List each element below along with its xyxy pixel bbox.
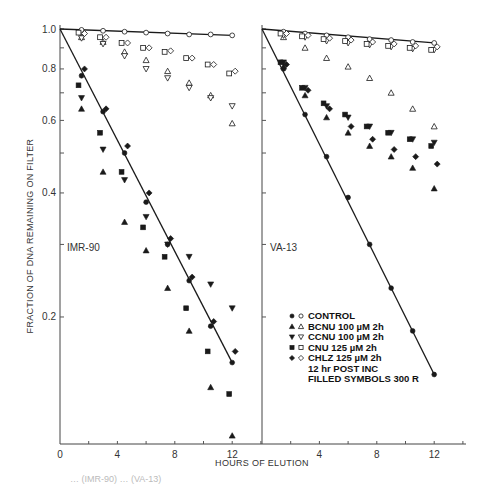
triangle-down-marker-icon	[165, 76, 171, 81]
square-marker-icon	[386, 130, 391, 135]
square-marker-icon	[300, 85, 305, 90]
square-marker-icon	[76, 30, 81, 35]
triangle-down-marker-icon	[208, 96, 214, 101]
fit-line	[60, 29, 232, 363]
x-tick-label: 12	[429, 449, 441, 460]
diamond-marker-icon	[298, 355, 303, 360]
triangle-up-marker-icon	[302, 92, 308, 97]
square-marker-icon	[184, 306, 189, 311]
square-marker-icon	[205, 349, 210, 354]
diamond-marker-icon	[168, 48, 174, 54]
square-marker-icon	[141, 45, 146, 50]
square-marker-icon	[227, 392, 232, 397]
y-tick-label: 0.6	[42, 115, 56, 126]
diamond-marker-icon	[211, 62, 217, 68]
circle-marker-icon	[122, 29, 127, 34]
square-marker-icon	[321, 101, 326, 106]
triangle-up-marker-icon	[289, 324, 294, 329]
square-marker-icon	[321, 37, 326, 42]
square-marker-icon	[343, 112, 348, 117]
y-tick-label: 0.4	[42, 187, 56, 198]
square-marker-icon	[429, 144, 434, 149]
triangle-down-marker-icon	[122, 54, 128, 59]
triangle-up-marker-icon	[431, 123, 437, 128]
circle-marker-icon	[432, 372, 437, 377]
triangle-up-marker-icon	[143, 247, 149, 252]
plot-imr-90	[60, 27, 238, 438]
square-marker-icon	[386, 43, 391, 48]
triangle-up-marker-icon	[229, 120, 235, 125]
x-tick-label: 0	[57, 449, 63, 460]
y-axis-title: FRACTION OF DNA REMAINING ON FILTER	[25, 138, 35, 333]
circle-marker-icon	[324, 154, 329, 159]
triangle-down-marker-icon	[298, 335, 303, 340]
triangle-up-marker-icon	[324, 114, 330, 119]
square-marker-icon	[119, 169, 124, 174]
triangle-up-marker-icon	[298, 324, 303, 329]
square-marker-icon	[205, 62, 210, 67]
panel-label-va-13: VA-13	[270, 242, 297, 253]
diamond-marker-icon	[168, 236, 174, 242]
circle-marker-icon	[79, 73, 84, 78]
triangle-up-marker-icon	[229, 433, 235, 438]
square-marker-icon	[407, 45, 412, 50]
triangle-down-marker-icon	[186, 85, 192, 90]
triangle-up-marker-icon	[431, 186, 437, 191]
triangle-down-marker-icon	[229, 306, 235, 311]
circle-marker-icon	[208, 32, 213, 37]
circle-marker-icon	[303, 112, 308, 117]
triangle-up-marker-icon	[410, 106, 416, 111]
figure-caption: … (IMR-90) … (VA-13)	[70, 474, 470, 484]
circle-marker-icon	[122, 151, 127, 156]
square-marker-icon	[76, 83, 81, 88]
square-marker-icon	[119, 41, 124, 46]
x-tick-label: 4	[115, 449, 121, 460]
triangle-up-marker-icon	[367, 75, 373, 80]
square-marker-icon	[290, 345, 294, 349]
diamond-marker-icon	[146, 45, 152, 51]
circle-marker-icon	[367, 242, 372, 247]
triangle-down-marker-icon	[208, 282, 214, 287]
square-marker-icon	[343, 39, 348, 44]
square-marker-icon	[300, 34, 305, 39]
triangle-up-marker-icon	[208, 384, 214, 389]
diamond-marker-icon	[125, 40, 131, 46]
circle-marker-icon	[187, 32, 192, 37]
triangle-down-marker-icon	[79, 96, 85, 101]
x-tick-label: 8	[172, 449, 178, 460]
triangle-down-marker-icon	[143, 214, 149, 219]
diamond-marker-icon	[232, 348, 238, 354]
diamond-marker-icon	[232, 68, 238, 74]
diamond-marker-icon	[125, 143, 131, 149]
triangle-down-marker-icon	[289, 335, 294, 340]
legend-note: 12 hr POST INC	[308, 363, 378, 374]
diamond-marker-icon	[413, 154, 419, 160]
square-marker-icon	[98, 130, 103, 135]
triangle-down-marker-icon	[186, 254, 192, 259]
triangle-up-marker-icon	[345, 64, 351, 69]
circle-marker-icon	[144, 30, 149, 35]
square-marker-icon	[98, 35, 103, 40]
triangle-up-marker-icon	[302, 45, 308, 50]
triangle-up-marker-icon	[122, 219, 128, 224]
diamond-marker-icon	[289, 355, 294, 360]
square-marker-icon	[184, 56, 189, 61]
triangle-up-marker-icon	[100, 169, 106, 174]
panel-label-imr-90: IMR-90	[67, 242, 100, 253]
circle-marker-icon	[208, 324, 213, 329]
x-tick-label: 4	[317, 449, 323, 460]
square-marker-icon	[162, 49, 167, 54]
triangle-up-marker-icon	[367, 143, 373, 148]
square-marker-icon	[364, 42, 369, 47]
square-marker-icon	[278, 60, 283, 65]
square-marker-icon	[227, 71, 232, 76]
circle-marker-icon	[144, 200, 149, 205]
circle-marker-icon	[389, 286, 394, 291]
circle-marker-icon	[101, 28, 106, 33]
diamond-marker-icon	[348, 123, 354, 129]
diamond-marker-icon	[370, 136, 376, 142]
square-marker-icon	[429, 47, 434, 52]
legend-note: FILLED SYMBOLS 300 R	[308, 373, 419, 384]
square-marker-icon	[407, 137, 412, 142]
triangle-up-marker-icon	[410, 165, 416, 170]
